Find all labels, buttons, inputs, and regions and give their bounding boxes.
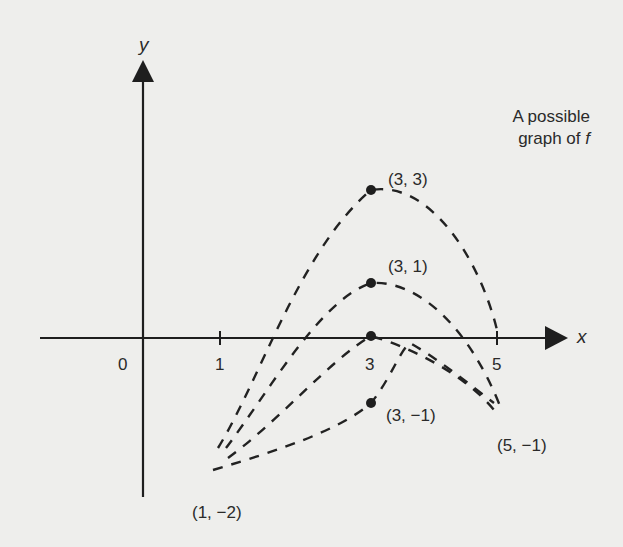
curve-peak-3: [218, 189, 497, 448]
annotation-prefix: graph of: [518, 129, 585, 148]
point-label-3-1: (3, 1): [388, 257, 428, 277]
curve-peak-1: [226, 283, 500, 448]
point-label-1-neg2: (1, −2): [192, 503, 242, 523]
annotation-line-2: graph of f: [480, 128, 590, 150]
y-axis-arrow-icon: [132, 60, 154, 82]
annotation-function-name: f: [585, 129, 590, 148]
point-3-0: [366, 331, 376, 341]
tick-label-0: 0: [118, 355, 127, 375]
tick-label-1: 1: [215, 355, 224, 375]
point-label-5-neg1: (5, −1): [497, 436, 547, 456]
point-3-neg1: [366, 398, 376, 408]
point-label-3-neg1: (3, −1): [386, 406, 436, 426]
y-axis-label: y: [139, 34, 149, 56]
x-axis-label: x: [577, 326, 587, 348]
curves: [213, 189, 500, 470]
curve-peak-neg1: [213, 343, 494, 470]
annotation-line-1: A possible: [480, 106, 590, 128]
graph-annotation: A possible graph of f: [480, 106, 590, 150]
tick-label-5: 5: [492, 355, 501, 375]
point-label-3-3: (3, 3): [388, 170, 428, 190]
point-3-3: [366, 185, 376, 195]
plot-area: [0, 0, 623, 547]
x-axis-arrow-icon: [545, 326, 568, 350]
tick-label-3: 3: [365, 355, 374, 375]
point-3-1: [366, 278, 376, 288]
curve-peak-0: [228, 336, 494, 458]
chart: y x 0 1 3 5 (3, 3) (3, 1) (3, −1) (1, −2…: [0, 0, 623, 547]
